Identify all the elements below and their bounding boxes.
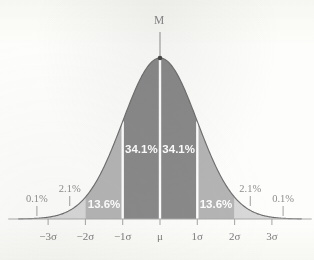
band-mu-to-plus-1	[160, 46, 197, 221]
label-0-1-percent-left: 0.1%	[26, 193, 48, 204]
band-plus-2-to-plus-3	[235, 46, 272, 221]
band-minus-2-to-minus-1	[85, 46, 122, 221]
label-34-1-percent-right: 34.1%	[162, 143, 195, 155]
x-axis-ticks	[48, 219, 272, 225]
label-13-6-percent-right: 13.6%	[200, 198, 233, 210]
label-2-1-percent-right: 2.1%	[239, 183, 261, 194]
x-axis-tick-labels: −3σ−2σ−1σμ1σ2σ3σ	[39, 230, 277, 242]
x-axis-tick-label-3: μ	[157, 230, 163, 242]
x-axis-tick-label-0: −3σ	[39, 230, 57, 242]
band-minus-1-to-mu	[123, 46, 160, 221]
peak-label-m: M	[154, 14, 164, 26]
x-axis-tick-label-1: −2σ	[77, 230, 95, 242]
label-0-1-percent-right: 0.1%	[272, 193, 294, 204]
normal-distribution-figure: 34.1% 34.1% 13.6% 13.6% 2.1% 0.1% 2.1% 0…	[0, 0, 314, 260]
label-13-6-percent-left: 13.6%	[88, 198, 121, 210]
x-axis-tick-label-2: −1σ	[114, 230, 132, 242]
x-axis-tick-label-4: 1σ	[192, 230, 204, 242]
peak-pointer-group	[158, 32, 163, 60]
x-axis-tick-label-5: 2σ	[229, 230, 241, 242]
label-2-1-percent-left: 2.1%	[59, 183, 81, 194]
band-minus-3-to-minus-2	[48, 46, 85, 221]
x-axis-tick-label-6: 3σ	[266, 230, 278, 242]
band-plus-1-to-plus-2	[197, 46, 234, 221]
label-34-1-percent-left: 34.1%	[125, 143, 158, 155]
peak-point-dot	[158, 56, 163, 61]
bell-curve-chart: 34.1% 34.1% 13.6% 13.6% 2.1% 0.1% 2.1% 0…	[0, 0, 314, 260]
